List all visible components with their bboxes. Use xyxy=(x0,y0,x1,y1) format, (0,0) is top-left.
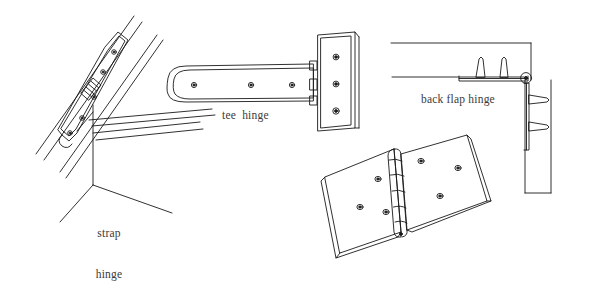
tee-hinge-plate-screw-holes xyxy=(333,54,339,114)
butt-hinge-illustration xyxy=(321,135,491,258)
back-flap-hinge-timber xyxy=(391,43,551,193)
strap-hinge-knuckle xyxy=(81,78,101,100)
label-strap-hinge: strap hinge xyxy=(86,200,132,285)
label-back-flap-hinge: back flap hinge xyxy=(421,93,495,107)
label-strap-hinge-line1: strap xyxy=(86,227,132,241)
label-strap-hinge-line2: hinge xyxy=(86,268,132,282)
back-flap-hinge-illustration xyxy=(391,43,551,193)
butt-hinge-right-leaf xyxy=(401,135,491,232)
back-flap-hinge-top-screws xyxy=(476,57,508,77)
butt-hinge-right-screw-holes xyxy=(418,158,461,198)
tee-hinge-strap-screw-holes xyxy=(191,82,294,87)
butt-hinge-left-screw-holes xyxy=(357,176,389,214)
strap-hinge-timber xyxy=(36,16,215,222)
back-flap-hinge-pin xyxy=(521,73,532,84)
tee-hinge-plate xyxy=(318,32,359,131)
label-tee-hinge: tee hinge xyxy=(222,109,269,123)
strap-hinge-illustration xyxy=(36,16,215,222)
back-flap-hinge-side-screws xyxy=(529,95,549,131)
